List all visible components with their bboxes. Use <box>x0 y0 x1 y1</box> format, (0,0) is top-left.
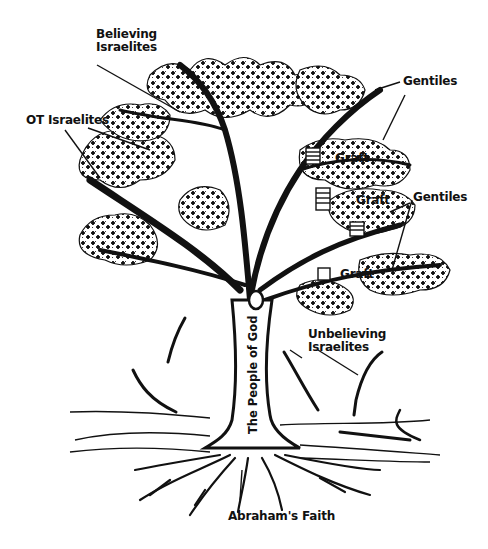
label-unbelieving-israelites: Unbelieving Israelites <box>308 328 386 354</box>
label-ot-israelites: OT Israelites <box>26 114 109 127</box>
roots <box>135 455 380 515</box>
label-graft-2: Graft <box>356 194 390 207</box>
label-abrahams-faith: Abraham's Faith <box>228 510 335 523</box>
label-gentiles-top: Gentiles <box>403 75 457 88</box>
tree-diagram: Believing Israelites OT Israelites Genti… <box>0 0 488 549</box>
label-trunk-people-of-god: The People of God <box>246 316 260 434</box>
label-believing-israelites: Believing Israelites <box>96 28 157 54</box>
label-graft-1: Graft <box>335 152 369 165</box>
label-gentiles-middle: Gentiles <box>413 191 467 204</box>
foliage <box>79 58 450 316</box>
label-graft-3: Graft <box>340 268 374 281</box>
